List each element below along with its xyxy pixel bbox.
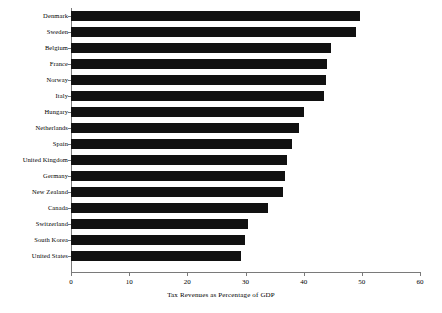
bar — [71, 91, 324, 101]
bar — [71, 219, 248, 229]
y-axis-category-label: New Zealand — [0, 184, 68, 200]
bar — [71, 187, 283, 197]
y-axis-category-label: Canada — [0, 200, 68, 216]
bar-row — [71, 56, 420, 72]
bar-row — [71, 40, 420, 56]
y-axis-category-label: Spain — [0, 136, 68, 152]
x-axis-tick-label: 40 — [284, 277, 324, 287]
y-axis-tick — [68, 160, 71, 161]
x-axis-tick — [71, 273, 72, 276]
y-axis-tick — [68, 224, 71, 225]
x-axis-tick-label: 10 — [109, 277, 149, 287]
y-axis-tick — [68, 16, 71, 17]
y-axis-tick — [68, 176, 71, 177]
bar — [71, 171, 285, 181]
x-axis-tick-label: 60 — [400, 277, 440, 287]
y-axis-tick — [68, 64, 71, 65]
x-axis-tick-label: 20 — [167, 277, 207, 287]
x-axis-tick — [129, 273, 130, 276]
x-axis-tick — [246, 273, 247, 276]
y-axis-category-label: Hungary — [0, 104, 68, 120]
bar-row — [71, 24, 420, 40]
bar — [71, 11, 360, 21]
bar-row — [71, 216, 420, 232]
bar-row — [71, 120, 420, 136]
x-axis-tick-label: 30 — [226, 277, 266, 287]
plot-area — [71, 8, 420, 272]
y-axis-tick — [68, 80, 71, 81]
bar — [71, 107, 304, 117]
y-axis-tick — [68, 96, 71, 97]
x-axis-tick — [362, 273, 363, 276]
y-axis-category-label: Netherlands — [0, 120, 68, 136]
bar-row — [71, 248, 420, 264]
y-axis-category-label: France — [0, 56, 68, 72]
x-axis-title: Tax Revenues as Percentage of GDP — [0, 291, 442, 299]
bar-row — [71, 72, 420, 88]
bar-row — [71, 232, 420, 248]
bar — [71, 123, 299, 133]
y-axis-tick — [68, 48, 71, 49]
bar — [71, 251, 241, 261]
bar — [71, 139, 292, 149]
y-axis-category-label: Denmark — [0, 8, 68, 24]
y-axis-category-label: Norway — [0, 72, 68, 88]
x-axis-tick-label: 50 — [342, 277, 382, 287]
y-axis-tick — [68, 112, 71, 113]
x-axis-tick — [304, 273, 305, 276]
bar-chart: Tax Revenues as Percentage of GDP Denmar… — [0, 0, 442, 313]
bar — [71, 59, 327, 69]
y-axis-category-label: South Korea — [0, 232, 68, 248]
y-axis-tick — [68, 32, 71, 33]
bar-row — [71, 200, 420, 216]
bar — [71, 43, 331, 53]
y-axis-tick — [68, 192, 71, 193]
bar — [71, 203, 268, 213]
y-axis-category-label: Sweden — [0, 24, 68, 40]
y-axis-tick — [68, 208, 71, 209]
bar — [71, 75, 326, 85]
y-axis-category-label: Italy — [0, 88, 68, 104]
y-axis-category-label: United Kingdom — [0, 152, 68, 168]
bar-row — [71, 184, 420, 200]
bar — [71, 155, 287, 165]
y-axis-category-label: Switzerland — [0, 216, 68, 232]
bar-row — [71, 168, 420, 184]
y-axis-tick — [68, 256, 71, 257]
y-axis-category-label: Germany — [0, 168, 68, 184]
bar — [71, 235, 245, 245]
y-axis-tick — [68, 240, 71, 241]
y-axis-category-label: United States — [0, 248, 68, 264]
bar-row — [71, 88, 420, 104]
bar-row — [71, 152, 420, 168]
bar-row — [71, 104, 420, 120]
bar-row — [71, 136, 420, 152]
y-axis-tick — [68, 128, 71, 129]
x-axis-tick — [187, 273, 188, 276]
bar — [71, 27, 356, 37]
x-axis-tick — [420, 273, 421, 276]
y-axis-tick — [68, 144, 71, 145]
x-axis-tick-label: 0 — [51, 277, 91, 287]
y-axis-category-label: Belgium — [0, 40, 68, 56]
bar-row — [71, 8, 420, 24]
